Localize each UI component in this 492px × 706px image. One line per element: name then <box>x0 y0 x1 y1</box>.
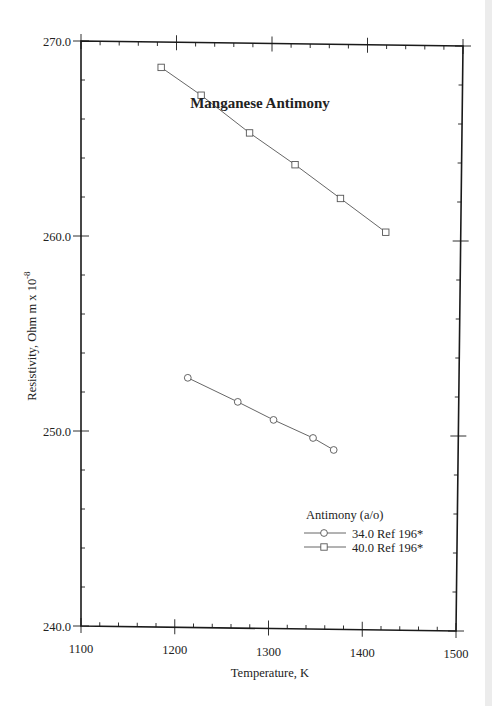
legend-label: 40.0 Ref 196* <box>352 541 423 555</box>
circle-data-point <box>330 447 337 454</box>
circle-marker-icon <box>321 530 328 537</box>
legend: Antimony (a/o) 34.0 Ref 196*40.0 Ref 196… <box>304 508 423 555</box>
series-square <box>158 64 389 235</box>
y-axis-label: Resistivity, Ohm m x 10-8 <box>22 271 39 401</box>
legend-label: 34.0 Ref 196* <box>352 527 423 541</box>
chart-title: Manganese Antimony <box>190 95 330 111</box>
legend-entry: 34.0 Ref 196* <box>304 527 423 541</box>
series-circle <box>184 374 337 453</box>
x-tick-label: 1500 <box>444 647 469 661</box>
square-data-point <box>383 229 389 235</box>
circle-data-point <box>310 435 317 442</box>
x-tick-label: 1300 <box>256 645 281 659</box>
circle-data-point <box>184 374 191 381</box>
legend-title: Antimony (a/o) <box>306 508 383 522</box>
data-series <box>158 64 389 453</box>
circle-data-point <box>270 417 277 424</box>
y-tick-label: 250.0 <box>43 425 71 439</box>
legend-entry: 40.0 Ref 196* <box>304 541 423 555</box>
y-axis-label-text: Resistivity, Ohm m x 10 <box>25 279 39 401</box>
resistivity-chart: 11001200130014001500240.0250.0260.0270.0… <box>0 0 492 706</box>
square-data-point <box>158 64 164 70</box>
y-tick-label: 270.0 <box>43 35 71 49</box>
x-axis-label: Temperature, K <box>231 666 309 680</box>
x-tick-label: 1200 <box>162 643 187 657</box>
legend-entries: 34.0 Ref 196*40.0 Ref 196* <box>304 527 423 555</box>
x-tick-label: 1100 <box>69 642 94 656</box>
series-line <box>161 67 386 232</box>
square-data-point <box>246 130 252 136</box>
square-data-point <box>292 162 298 168</box>
tick-labels: 11001200130014001500240.0250.0260.0270.0 <box>43 35 469 662</box>
y-tick-label: 260.0 <box>43 230 71 244</box>
square-marker-icon <box>321 544 327 550</box>
y-axis-label-exponent: -8 <box>22 271 32 279</box>
y-tick-label: 240.0 <box>43 620 71 634</box>
circle-data-point <box>234 398 241 405</box>
square-data-point <box>337 195 343 201</box>
x-tick-label: 1400 <box>350 646 375 660</box>
